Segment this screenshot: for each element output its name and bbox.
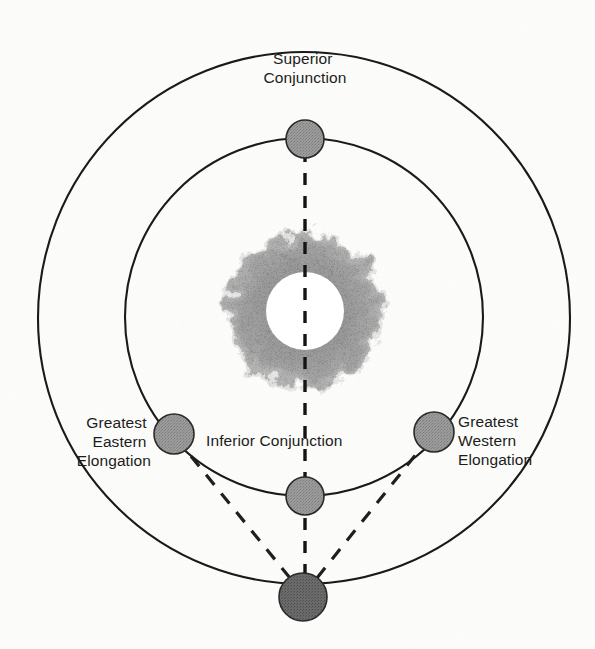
label-inferior-conjunction: Inferior Conjunction <box>206 432 342 449</box>
planet-greatest-eastern-elongation <box>154 414 194 454</box>
label-greatest-western-elongation-line3: Elongation <box>458 451 532 468</box>
label-superior-conjunction-line2: Conjunction <box>264 69 347 86</box>
label-inferior-conjunction-line1: Inferior Conjunction <box>206 432 342 449</box>
diagram-canvas: Superior Conjunction Inferior Conjunctio… <box>0 0 595 649</box>
label-greatest-eastern-elongation-line3: Elongation <box>77 452 151 469</box>
earth <box>279 573 327 621</box>
label-greatest-western-elongation-line2: Western <box>458 432 516 449</box>
astronomy-diagram: Superior Conjunction Inferior Conjunctio… <box>0 0 595 649</box>
planet-inferior-conjunction <box>286 477 324 515</box>
label-greatest-western-elongation-line1: Greatest <box>458 413 519 430</box>
label-greatest-eastern-elongation-line1: Greatest <box>86 414 147 431</box>
planet-superior-conjunction <box>286 120 324 158</box>
planet-greatest-western-elongation <box>414 412 454 452</box>
label-greatest-eastern-elongation-line2: Eastern <box>92 433 146 450</box>
label-superior-conjunction-line1: Superior <box>273 50 332 67</box>
